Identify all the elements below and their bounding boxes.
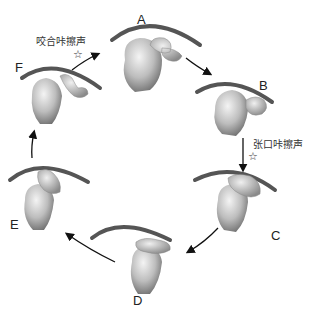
arrow-c-to-d (188, 228, 218, 252)
arrow-e-to-f (32, 132, 34, 158)
stage-label-a: A (137, 12, 146, 27)
opening-click-star-icon: ☆ (248, 150, 258, 163)
arrow-a-to-b (186, 58, 210, 74)
closing-click-star-icon: ☆ (73, 48, 83, 61)
stage-c-joint (195, 172, 275, 232)
closing-click-label: 咬合咔擦声 (36, 33, 86, 48)
opening-click-label: 张口咔擦声 (253, 136, 303, 151)
stage-label-d: D (133, 293, 142, 308)
stage-label-f: F (15, 60, 23, 75)
stage-label-b: B (259, 78, 268, 93)
stage-label-c: C (271, 228, 280, 243)
stage-d-joint (92, 227, 170, 294)
stage-f-joint (22, 69, 100, 124)
stage-e-joint (10, 168, 88, 230)
stage-label-e: E (10, 217, 19, 232)
